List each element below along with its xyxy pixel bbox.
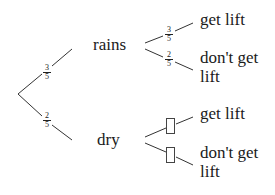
branch-rains-line-b bbox=[52, 49, 72, 66]
prob-rains-denominator: 5 bbox=[43, 73, 51, 81]
blank-answer-box-dry-get-lift[interactable] bbox=[166, 118, 175, 134]
prob-dry-denominator: 5 bbox=[43, 121, 51, 129]
branch-rains-nolift-line-b bbox=[175, 62, 193, 70]
branch-dry-lift-line-b bbox=[176, 117, 193, 124]
branch-dry-line-a bbox=[18, 94, 42, 116]
label-dry: dry bbox=[97, 131, 120, 149]
branch-rains-line-a bbox=[18, 74, 42, 94]
prob-dry: 2 5 bbox=[43, 112, 51, 129]
label-rains: rains bbox=[93, 36, 126, 54]
label-rains-get-lift: get lift bbox=[200, 11, 245, 29]
label-dry-dont-get-lift-line1: don't get bbox=[200, 144, 258, 162]
blank-answer-box-dry-no-lift[interactable] bbox=[166, 147, 175, 163]
label-rains-dont-get-lift-line1: don't get bbox=[200, 49, 258, 67]
label-dry-dont-get-lift-line2: lift bbox=[200, 163, 220, 181]
label-rains-dont-get-lift-line2: lift bbox=[200, 68, 220, 86]
branch-dry-line-b bbox=[52, 125, 72, 140]
branch-rains-nolift-line-a bbox=[145, 49, 163, 57]
tree-lines bbox=[0, 0, 275, 195]
prob-rains-get-lift-denominator: 5 bbox=[165, 35, 173, 43]
branch-dry-nolift-line-a bbox=[145, 143, 166, 152]
prob-rains-no-lift: 2 5 bbox=[165, 51, 173, 68]
branch-dry-lift-line-a bbox=[145, 128, 166, 137]
label-dry-get-lift: get lift bbox=[200, 105, 245, 123]
branch-rains-lift-line-a bbox=[145, 36, 163, 43]
prob-rains-get-lift: 3 5 bbox=[165, 26, 173, 43]
branch-dry-nolift-line-b bbox=[176, 157, 193, 165]
branch-rains-lift-line-b bbox=[175, 23, 193, 31]
prob-rains-no-lift-denominator: 5 bbox=[165, 60, 173, 68]
prob-rains: 3 5 bbox=[43, 64, 51, 81]
